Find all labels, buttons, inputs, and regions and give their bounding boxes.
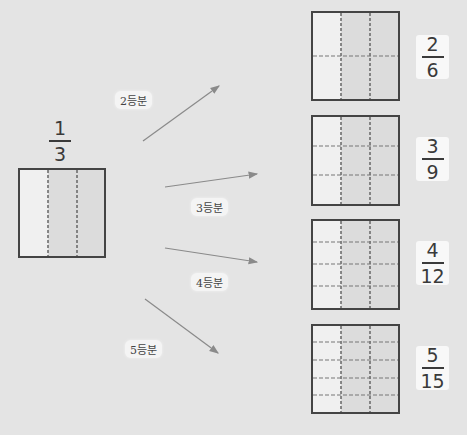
fraction-bar [422,56,444,58]
denominator: 12 [420,266,444,286]
denominator: 6 [426,60,438,80]
result-card-2-6: 2 6 [416,35,449,79]
division-label-3: 3등분 [191,198,228,216]
denominator: 15 [420,371,444,391]
square-5-rows [312,325,399,413]
arrow-3 [165,174,257,187]
square-4-rows [312,220,399,309]
fraction-bar [422,262,444,264]
numerator: 2 [426,34,438,54]
denominator: 9 [426,162,438,182]
result-card-5-15: 5 15 [416,346,449,390]
square-2-rows [312,12,399,100]
division-label-5: 5등분 [125,340,162,358]
source-square [19,169,105,257]
arrow-4 [165,248,257,262]
numerator: 5 [426,345,438,365]
division-label-2: 2등분 [115,91,152,109]
fraction-bar [422,158,444,160]
result-card-3-9: 3 9 [416,137,449,181]
fraction-bar [422,367,444,369]
diagram-graphics [0,0,467,435]
arrow-2 [143,86,219,141]
numerator: 4 [426,240,438,260]
result-card-4-12: 4 12 [416,241,449,285]
numerator: 3 [426,136,438,156]
division-label-4: 4등분 [191,273,228,291]
square-3-rows [312,116,399,205]
